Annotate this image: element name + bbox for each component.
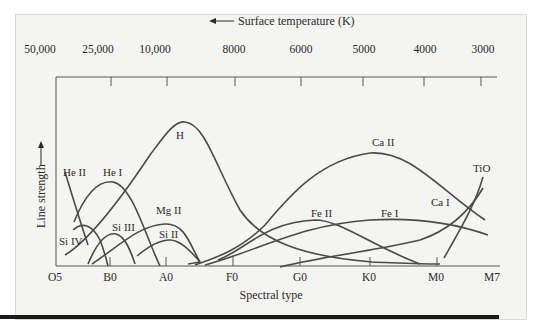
x-tick-label: A0 <box>159 271 173 283</box>
label-si-iv: Si IV <box>59 235 83 247</box>
curve-mg-ii <box>92 224 200 264</box>
label-ca-ii: Ca II <box>372 136 395 148</box>
x-tick-label: B0 <box>103 271 117 283</box>
curve-fe-ii <box>218 220 420 264</box>
label-he-i: He I <box>103 166 123 178</box>
top-tick-label: 3000 <box>472 43 495 55</box>
top-tick-label: 6000 <box>290 43 313 55</box>
label-si-ii: Si II <box>159 228 179 240</box>
top-tick-labels: 50,000 25,000 10,000 8000 6000 5000 4000… <box>24 43 495 56</box>
top-tick-label: 4000 <box>414 43 437 55</box>
top-axis-label: Surface temperature (K) <box>238 14 355 28</box>
x-tick-label: G0 <box>293 271 307 283</box>
curve-tio <box>444 177 483 258</box>
x-tick-labels: O5 B0 A0 F0 G0 K0 M0 M7 <box>48 271 500 283</box>
curve-fe-i <box>205 219 488 265</box>
label-fe-ii: Fe II <box>311 207 332 219</box>
label-tio: TiO <box>473 162 490 174</box>
x-tick-label: M0 <box>428 271 444 283</box>
x-tick-label: K0 <box>362 271 376 283</box>
arrow-left-icon <box>209 18 216 24</box>
spectral-line-chart: Surface temperature (K) 50,000 25,000 10… <box>0 0 540 334</box>
y-axis-title: Line strength <box>34 141 48 228</box>
top-tick-label: 5000 <box>353 43 376 55</box>
label-h: H <box>176 129 184 141</box>
top-tick-label: 50,000 <box>24 43 56 56</box>
label-ca-i: Ca I <box>431 196 450 208</box>
y-axis-label: Line strength <box>34 164 48 228</box>
label-si-iii: Si III <box>112 221 135 233</box>
x-tick-label: F0 <box>226 271 238 283</box>
top-tick-label: 8000 <box>223 43 246 55</box>
top-tick-label: 25,000 <box>82 43 114 56</box>
top-axis-title: Surface temperature (K) <box>209 14 355 28</box>
x-tick-label: M7 <box>484 271 500 283</box>
label-fe-i: Fe I <box>381 207 399 219</box>
curve-ca-i <box>280 188 483 267</box>
arrow-up-icon <box>38 141 44 148</box>
label-mg-ii: Mg II <box>156 204 182 216</box>
x-axis-label: Spectral type <box>240 288 303 302</box>
top-tick-label: 10,000 <box>139 43 171 56</box>
label-he-ii: He II <box>63 166 86 178</box>
spectral-curves <box>65 122 488 267</box>
x-tick-label: O5 <box>48 271 62 283</box>
